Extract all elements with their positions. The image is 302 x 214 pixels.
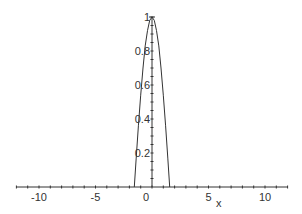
plot-area: -10-505100.20.40.60.81 x (0, 0, 302, 214)
axes (16, 17, 287, 189)
y-tick-label: 1 (144, 11, 150, 23)
x-tick-label: 5 (205, 191, 211, 203)
x-tick-label: -5 (91, 191, 101, 203)
y-tick-label: 0.8 (135, 45, 150, 57)
tick-labels: -10-505100.20.40.60.81 (31, 11, 271, 203)
x-tick-label: -10 (31, 191, 47, 203)
x-tick-label: 10 (259, 191, 271, 203)
y-tick-label: 0.6 (135, 79, 150, 91)
y-tick-label: 0.4 (135, 113, 150, 125)
x-tick-label: 0 (143, 191, 149, 203)
x-axis-label: x (216, 197, 222, 209)
y-tick-label: 0.2 (135, 147, 150, 159)
